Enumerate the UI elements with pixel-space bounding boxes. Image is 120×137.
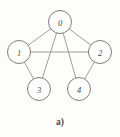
graph-edge-2-4 <box>85 62 95 79</box>
graph-node-label-1: 1 <box>17 48 21 58</box>
graph-node-2[interactable]: 2 <box>89 41 112 64</box>
graph-edge-1-3 <box>24 62 33 79</box>
graph-node-4[interactable]: 4 <box>68 78 91 101</box>
graph-node-0[interactable]: 0 <box>49 11 72 34</box>
graph-edge-0-3 <box>42 33 56 78</box>
figure-caption: a) <box>56 117 64 128</box>
graph-canvas: 01234 a) <box>0 0 120 137</box>
edges-layer <box>24 29 94 79</box>
graph-edge-0-2 <box>69 29 91 45</box>
graph-edge-0-4 <box>63 33 76 78</box>
figure-container: 01234 a) <box>0 0 120 137</box>
graph-node-3[interactable]: 3 <box>28 78 51 101</box>
graph-edge-0-1 <box>28 29 50 45</box>
nodes-layer: 01234 <box>8 11 112 101</box>
graph-node-1[interactable]: 1 <box>8 41 31 64</box>
graph-node-label-3: 3 <box>36 85 41 95</box>
